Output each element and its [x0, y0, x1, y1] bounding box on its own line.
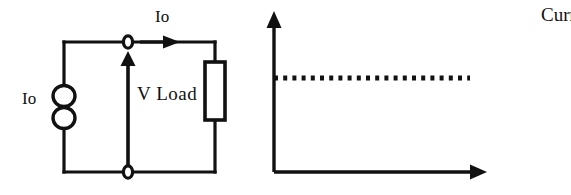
chart-svg — [250, 0, 571, 195]
source-current-label: Io — [22, 90, 36, 107]
figure-root: Io Io V Load Current Voltage Io — [0, 0, 571, 195]
current-source-circle-bottom — [53, 108, 75, 129]
load-resistor — [205, 62, 225, 120]
y-axis — [267, 11, 282, 172]
x-axis-arrow-head — [470, 165, 487, 180]
circuit-svg — [0, 0, 250, 195]
voltage-arrow — [121, 51, 136, 166]
y-axis-arrow-head — [267, 11, 282, 28]
load-resistor-body — [205, 62, 225, 120]
voltage-arrow-head — [121, 51, 136, 66]
bottom-node-marker — [123, 166, 132, 178]
iv-characteristic-chart: Current Voltage Io — [250, 0, 571, 195]
current-source-circle-top — [53, 86, 75, 107]
circuit-wires — [64, 42, 215, 172]
circuit-diagram: Io Io V Load — [0, 0, 250, 195]
y-axis-label: Current — [541, 5, 571, 24]
branch-current-arrow-head — [163, 36, 180, 49]
branch-current-arrow — [140, 36, 180, 49]
voltage-load-label: V Load — [137, 84, 197, 103]
branch-current-label: Io — [155, 8, 169, 25]
x-axis — [274, 165, 487, 180]
top-node-marker — [123, 36, 132, 48]
current-source-symbol — [53, 86, 75, 129]
